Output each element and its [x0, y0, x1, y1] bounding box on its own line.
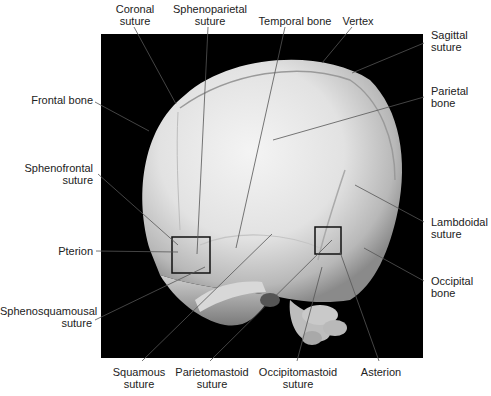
label-coronal-suture: Coronal suture [112, 3, 158, 27]
label-lambdoidal-suture: Lambdoidal suture [431, 216, 488, 240]
skull-illustration [101, 34, 423, 358]
label-sagittal-suture: Sagittal suture [431, 29, 468, 53]
label-frontal-bone: Frontal bone [10, 94, 93, 106]
label-squamous-suture: Squamous suture [108, 366, 170, 390]
label-sphenosquamousal-suture: Sphenosquamousal suture [0, 305, 92, 329]
label-parietal-bone: Parietal bone [431, 85, 468, 109]
label-pterion: Pterion [10, 245, 93, 257]
skull-ct-image [101, 34, 423, 358]
label-sphenofrontal-suture: Sphenofrontal suture [10, 162, 93, 186]
label-temporal-bone: Temporal bone [255, 15, 335, 27]
label-sphenoparietal-suture: Sphenoparietal suture [170, 3, 250, 27]
label-occipital-bone: Occipital bone [431, 275, 473, 299]
label-parietomastoid-suture: Parietomastoid suture [170, 366, 254, 390]
label-vertex: Vertex [338, 15, 378, 27]
label-asterion: Asterion [355, 366, 407, 378]
label-occipitomastoid-suture: Occipitomastoid suture [255, 366, 341, 390]
